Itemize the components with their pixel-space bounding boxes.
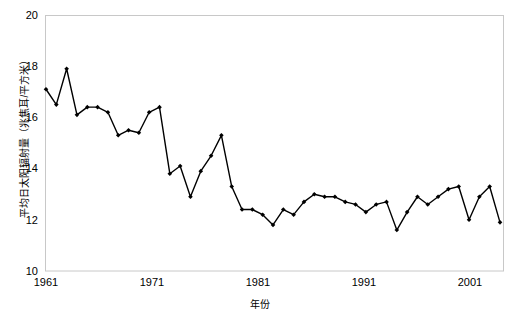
xtick-label-1981: 1981 xyxy=(235,277,281,288)
xtick-label-2001: 2001 xyxy=(447,277,493,288)
solar-radiation-line-chart: 20 18 16 14 12 10 1961 1971 1981 1991 20… xyxy=(0,0,520,318)
chart-plot-area xyxy=(0,0,520,318)
y-axis-title: 平均日太阳辐射量（兆焦耳/平方米） xyxy=(19,58,30,218)
xtick-label-1971: 1971 xyxy=(129,277,175,288)
ytick-label-20: 20 xyxy=(12,10,38,21)
xtick-label-1991: 1991 xyxy=(341,277,387,288)
xtick-label-1961: 1961 xyxy=(23,277,69,288)
x-axis-title: 年份 xyxy=(0,299,520,310)
plot-background xyxy=(0,0,520,318)
